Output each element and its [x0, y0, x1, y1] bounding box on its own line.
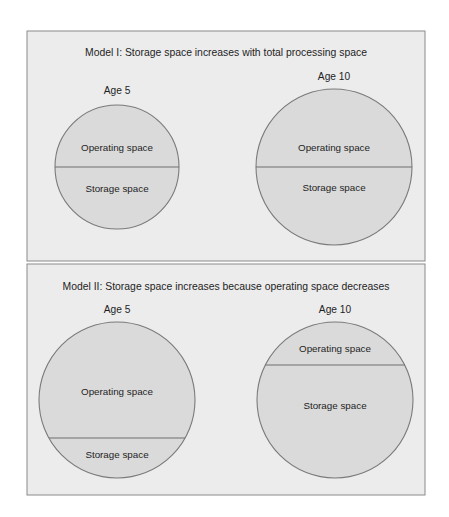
age-label: Age 10 [319, 304, 352, 315]
age-label: Age 5 [104, 304, 131, 315]
storage-space-label: Storage space [303, 400, 367, 411]
storage-space-label: Storage space [85, 183, 149, 194]
operating-space-label: Operating space [299, 343, 371, 354]
model-2-panel: Model II: Storage space increases becaus… [27, 264, 425, 495]
model-1-panel: Model I: Storage space increases with to… [27, 31, 425, 261]
operating-space-label: Operating space [298, 142, 370, 153]
age-label: Age 5 [104, 85, 131, 96]
model-1-title: Model I: Storage space increases with to… [85, 47, 367, 58]
operating-space-label: Operating space [81, 142, 153, 153]
storage-space-label: Storage space [302, 182, 366, 193]
model-2-title: Model II: Storage space increases becaus… [63, 281, 390, 292]
storage-space-label: Storage space [85, 449, 149, 460]
age-label: Age 10 [318, 71, 351, 82]
model-comparison-diagram: Model I: Storage space increases with to… [0, 0, 449, 517]
operating-space-label: Operating space [81, 386, 153, 397]
